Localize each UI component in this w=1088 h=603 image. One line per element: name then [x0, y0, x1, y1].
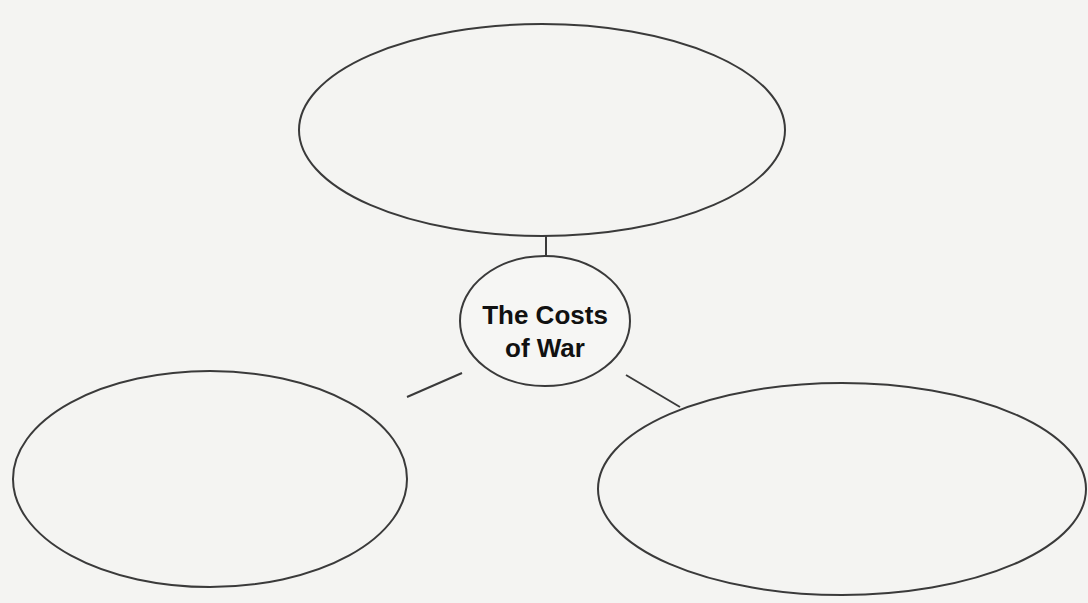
bottom-right-branch-ellipse[interactable]	[598, 383, 1086, 595]
connector-bottom-left	[407, 373, 462, 397]
connector-bottom-right	[626, 375, 680, 407]
center-title-line2: of War	[505, 333, 585, 363]
center-title-line1: The Costs	[482, 300, 608, 330]
concept-web-diagram: The Costs of War	[0, 0, 1088, 603]
top-branch-ellipse[interactable]	[299, 24, 785, 236]
bottom-left-branch-ellipse[interactable]	[13, 371, 407, 587]
